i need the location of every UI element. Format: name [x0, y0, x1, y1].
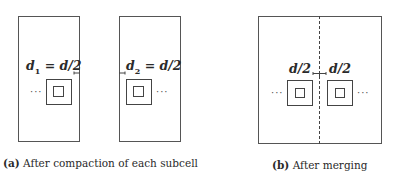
double-distance-arrow-icon [313, 71, 326, 76]
caption-b: (b) After merging [272, 159, 367, 171]
left-distance-label: d/2 [289, 61, 311, 76]
continuation-dots: ··· [271, 88, 284, 98]
inner-square [295, 88, 305, 98]
subcell-2-distance-label: d2 = d/2 [126, 58, 182, 76]
inner-square [53, 86, 64, 97]
merged-cell-boundary [258, 16, 382, 144]
merge-boundary-dashed-line [319, 16, 320, 144]
inner-square [133, 86, 144, 97]
distance-arrow-icon [119, 70, 125, 76]
continuation-dots: ··· [30, 87, 43, 97]
caption-a: (a) After compaction of each subcell [3, 157, 198, 169]
continuation-dots: ··· [357, 88, 370, 98]
inner-square [335, 88, 345, 98]
continuation-dots: ··· [156, 87, 169, 97]
right-distance-label: d/2 [329, 61, 351, 76]
distance-arrow-icon [74, 70, 80, 76]
